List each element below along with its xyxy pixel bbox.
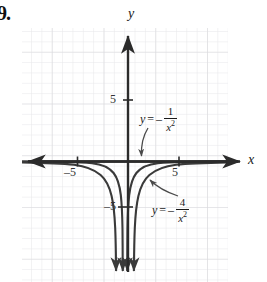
- fraction-numerator: 4: [178, 197, 188, 209]
- x-tick-label-pos5: 5: [172, 165, 178, 180]
- curve-label-four-over-x-squared: y = – 4 x2: [152, 197, 189, 224]
- fraction-denominator: x2: [164, 119, 177, 133]
- fraction-numerator: 1: [166, 106, 176, 118]
- equation-minus: –: [168, 203, 174, 218]
- fraction-denominator: x2: [176, 210, 189, 224]
- grid-background: [22, 28, 228, 282]
- y-tick-label-pos5: 5: [110, 92, 116, 107]
- equation-equals: =: [147, 112, 154, 127]
- y-axis-label: y: [128, 6, 134, 22]
- x-tick-label-neg5: –5: [64, 165, 76, 180]
- equation-fraction: 1 x2: [164, 106, 177, 133]
- equation-lhs: y: [140, 112, 145, 127]
- x-axis-label: x: [248, 152, 254, 168]
- equation-fraction: 4 x2: [176, 197, 189, 224]
- y-tick-label-neg5: –5: [104, 199, 116, 214]
- equation-equals: =: [159, 203, 166, 218]
- curve-label-one-over-x-squared: y = – 1 x2: [140, 106, 177, 133]
- problem-number: 9.: [0, 2, 10, 25]
- equation-lhs: y: [152, 203, 157, 218]
- graph-canvas: [0, 0, 267, 282]
- equation-minus: –: [156, 112, 162, 127]
